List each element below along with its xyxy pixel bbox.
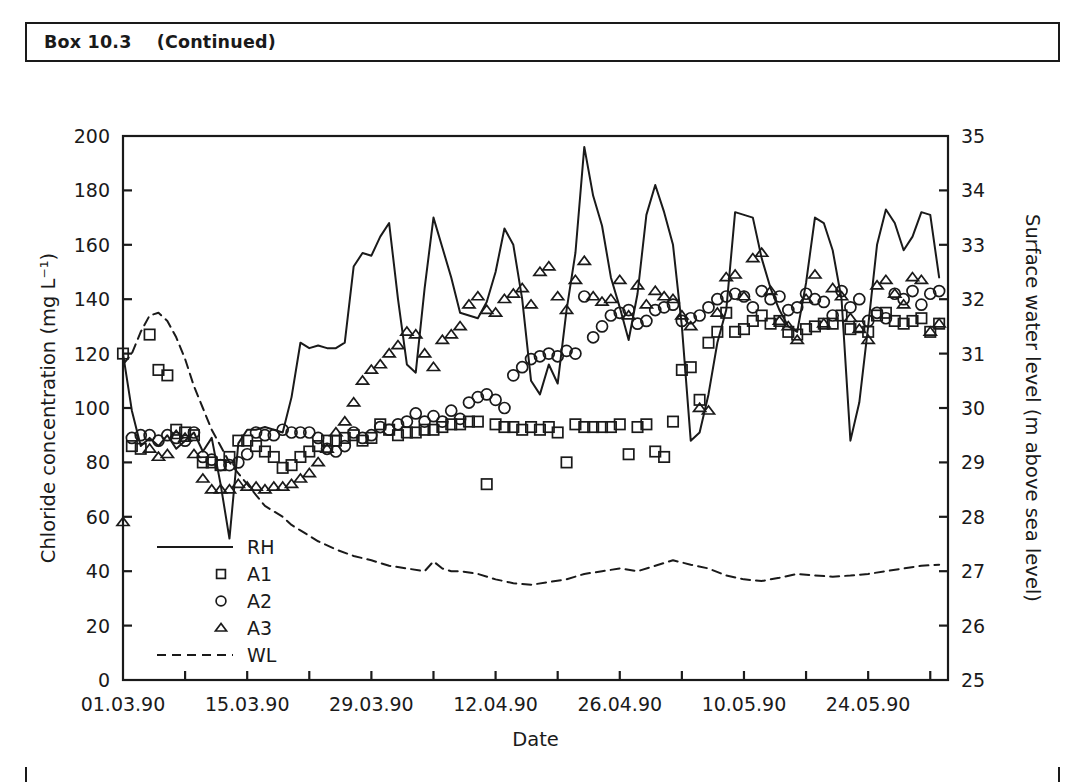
data-marker-triangle <box>552 292 564 300</box>
y2-axis-tick-label: 30 <box>961 397 985 419</box>
data-marker-triangle <box>383 349 395 357</box>
data-marker-triangle <box>312 458 324 466</box>
data-marker-circle <box>597 321 608 332</box>
y-axis-tick-label: 120 <box>74 343 110 365</box>
data-marker-triangle <box>543 262 555 270</box>
data-marker-triangle <box>463 300 475 308</box>
data-marker-triangle <box>419 349 431 357</box>
x-axis-tick-label: 01.03.90 <box>81 693 166 715</box>
data-marker-triangle <box>880 275 892 283</box>
data-marker-circle <box>446 405 457 416</box>
box-header: Box 10.3 (Continued) <box>25 22 1060 62</box>
x-axis-tick-label: 12.04.90 <box>453 693 538 715</box>
chart-legend: RHA1A2A3WL <box>157 536 277 666</box>
x-axis-tick-label: 26.04.90 <box>577 693 662 715</box>
series-A1 <box>118 308 945 490</box>
data-marker-triangle <box>472 292 484 300</box>
data-marker-circle <box>490 394 501 405</box>
data-marker-triangle <box>330 428 342 436</box>
y2-axis-tick-label: 27 <box>961 560 985 582</box>
data-marker-triangle <box>578 256 590 264</box>
x-axis-tick-label: 24.05.90 <box>826 693 911 715</box>
data-marker-square <box>668 416 678 426</box>
y-axis-tick-label: 160 <box>74 234 110 256</box>
data-marker-circle <box>517 362 528 373</box>
chloride-surface-water-chart: 0204060801001201401601802002526272829303… <box>25 62 1060 767</box>
legend-label-A3: A3 <box>247 617 272 639</box>
data-marker-square <box>144 329 154 339</box>
y2-axis-tick-label: 32 <box>961 288 985 310</box>
y2-axis-tick-label: 29 <box>961 451 985 473</box>
y2-axis-tick-label: 34 <box>961 179 985 201</box>
y2-axis-tick-label: 28 <box>961 506 985 528</box>
data-marker-triangle <box>445 330 457 338</box>
data-marker-triangle <box>809 270 821 278</box>
y2-axis-tick-label: 31 <box>961 343 985 365</box>
data-marker-circle <box>410 408 421 419</box>
y2-axis-title: Surface water level (m above sea level) <box>1021 214 1044 602</box>
data-marker-triangle <box>640 300 652 308</box>
data-marker-square <box>703 338 713 348</box>
series-line-RH <box>123 147 939 539</box>
data-marker-triangle <box>427 362 439 370</box>
box-title: Box 10.3 (Continued) <box>44 32 276 52</box>
y2-axis-tick-label: 26 <box>961 615 985 637</box>
y-axis-tick-label: 100 <box>74 397 110 419</box>
series-A3 <box>117 248 945 525</box>
data-marker-triangle <box>339 417 351 425</box>
data-marker-triangle <box>933 319 945 327</box>
y2-axis-tick-label: 33 <box>961 234 985 256</box>
data-marker-triangle <box>215 624 226 631</box>
y-axis-tick-label: 180 <box>74 179 110 201</box>
y-axis-tick-label: 80 <box>86 451 110 473</box>
data-marker-triangle <box>454 322 466 330</box>
data-marker-circle <box>499 403 510 414</box>
figure-container: 0204060801001201401601802002526272829303… <box>25 62 1060 767</box>
data-marker-triangle <box>525 300 537 308</box>
y-axis-tick-label: 40 <box>86 560 110 582</box>
data-marker-triangle <box>348 398 360 406</box>
x-axis-tick-label: 15.03.90 <box>205 693 290 715</box>
series-A2 <box>126 286 944 471</box>
legend-label-A1: A1 <box>247 563 272 585</box>
data-marker-triangle <box>356 376 368 384</box>
y-axis-tick-label: 60 <box>86 506 110 528</box>
y-axis-tick-label: 0 <box>98 669 110 691</box>
data-marker-triangle <box>250 482 262 490</box>
data-marker-circle <box>588 332 599 343</box>
data-marker-triangle <box>729 270 741 278</box>
data-marker-triangle <box>516 283 528 291</box>
data-marker-triangle <box>161 449 173 457</box>
data-marker-circle <box>747 302 758 313</box>
data-marker-triangle <box>197 474 209 482</box>
data-marker-triangle <box>374 360 386 368</box>
data-marker-square <box>623 449 633 459</box>
legend-label-A2: A2 <box>247 590 272 612</box>
data-marker-triangle <box>906 273 918 281</box>
y-axis-tick-label: 200 <box>74 125 110 147</box>
legend-label-RH: RH <box>247 536 275 558</box>
data-marker-circle <box>845 302 856 313</box>
data-marker-circle <box>907 286 918 297</box>
data-marker-square <box>561 457 571 467</box>
data-marker-circle <box>916 299 927 310</box>
data-marker-circle <box>854 294 865 305</box>
data-marker-circle <box>242 449 253 460</box>
x-axis-tick-label: 10.05.90 <box>702 693 787 715</box>
data-marker-triangle <box>649 286 661 294</box>
data-marker-square <box>217 570 226 579</box>
series-RH <box>123 147 939 539</box>
data-marker-circle <box>703 302 714 313</box>
data-marker-triangle <box>303 468 315 476</box>
data-marker-square <box>482 479 492 489</box>
y-axis-tick-label: 20 <box>86 615 110 637</box>
data-marker-triangle <box>392 341 404 349</box>
y-axis-title: Chloride concentration (mg L⁻¹) <box>37 253 60 563</box>
y-axis-tick-label: 140 <box>74 288 110 310</box>
x-axis-tick-label: 29.03.90 <box>329 693 414 715</box>
data-marker-triangle <box>605 294 617 302</box>
x-axis-title: Date <box>512 728 559 751</box>
data-marker-circle <box>216 596 226 606</box>
data-marker-circle <box>508 370 519 381</box>
